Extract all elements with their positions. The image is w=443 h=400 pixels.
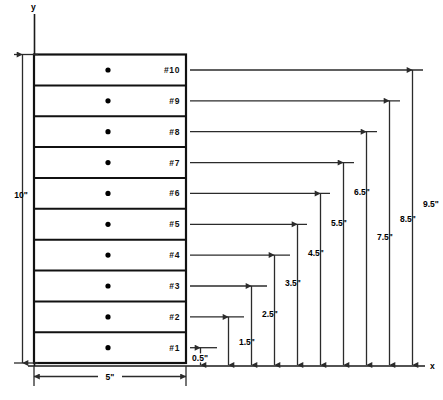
centroid-dot [105, 314, 110, 319]
leader-lines [190, 70, 423, 348]
centroid-dimension-1: 0.5" [192, 348, 208, 365]
centroid-dot [105, 253, 110, 258]
centroid-label-9: 8.5" [400, 214, 416, 224]
centroid-dot [105, 345, 110, 350]
centroid-dimension-10: 9.5" [413, 70, 439, 365]
centroid-dot [105, 67, 110, 72]
rect-label-6: #6 [169, 188, 180, 198]
centroid-label-8: 7.5" [377, 232, 393, 242]
centroid-label-6: 5.5" [331, 218, 347, 228]
centroid-label-2: 1.5" [239, 337, 255, 347]
y-axis-label: y [31, 2, 36, 12]
rect-label-3: #3 [169, 281, 180, 291]
diagram-canvas: y x #10 # [0, 0, 443, 400]
technical-drawing: y x #10 # [0, 0, 443, 400]
centroid-label-5: 4.5" [308, 248, 324, 258]
centroid-label-4: 3.5" [285, 278, 301, 288]
rect-label-1: #1 [169, 343, 180, 353]
centroid-dot [105, 283, 110, 288]
centroid-dot [105, 129, 110, 134]
overall-width-dimension: 5" [34, 366, 186, 386]
centroid-dot [105, 222, 110, 227]
composite-shape: #10 #9 #8 #7 #6 #5 #4 #3 #2 #1 [34, 55, 186, 364]
centroid-dot [105, 160, 110, 165]
rect-label-4: #4 [169, 250, 180, 260]
centroid-label-10: 9.5" [423, 199, 439, 209]
centroid-label-7: 6.5" [354, 187, 370, 197]
centroid-label-1: 0.5" [192, 353, 208, 363]
centroid-dot [105, 191, 110, 196]
width-dimension-label: 5" [106, 372, 115, 382]
rect-label-9: #9 [169, 96, 180, 106]
x-axis-label: x [430, 361, 435, 371]
rect-label-5: #5 [169, 219, 180, 229]
rect-label-10: #10 [164, 65, 180, 75]
rect-label-2: #2 [169, 312, 180, 322]
height-dimension-label: 10" [14, 190, 28, 200]
centroid-dot [105, 98, 110, 103]
centroid-label-3: 2.5" [262, 309, 278, 319]
rect-label-7: #7 [169, 158, 180, 168]
rect-label-8: #8 [169, 127, 180, 137]
